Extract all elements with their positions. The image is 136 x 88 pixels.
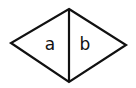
region-label-b: b [80,34,91,54]
rhombus-diagram: a b [0,0,136,88]
diagram-canvas: a b [0,0,136,88]
region-label-a: a [45,34,55,54]
